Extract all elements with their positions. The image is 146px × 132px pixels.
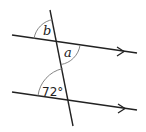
upper-parallel-line xyxy=(12,35,137,53)
transversal-line xyxy=(50,10,73,126)
angle-72-label: 72° xyxy=(42,85,63,99)
lower-parallel-line xyxy=(12,92,137,110)
upper-arrow-icon xyxy=(117,47,124,56)
angle-b-label: b xyxy=(43,23,51,38)
parallel-lines-diagram: b a 72° xyxy=(0,0,146,132)
angle-a-label: a xyxy=(64,45,72,60)
lower-arrow-icon xyxy=(118,104,125,113)
